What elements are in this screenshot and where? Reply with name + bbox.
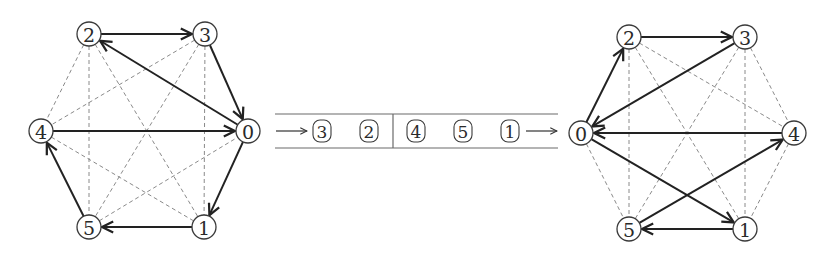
arrow-edge-3-to-0 (210, 45, 243, 119)
dashed-edge-3-4 (51, 40, 194, 125)
right-graph: 012345 (569, 25, 806, 241)
graph-node-1: 1 (733, 217, 757, 241)
left-graph: 012345 (29, 22, 260, 239)
graph-node-3: 3 (733, 25, 757, 49)
queue-item-label: 1 (505, 122, 516, 142)
node-label: 3 (199, 24, 211, 46)
graph-node-0: 0 (569, 121, 593, 145)
node-label: 5 (83, 217, 95, 239)
queue-strip: 32451 (275, 114, 558, 148)
node-label: 0 (242, 121, 254, 143)
graph-node-4: 4 (782, 121, 806, 145)
arrow-edge-5-to-4 (47, 143, 84, 217)
right-dashed-edges (586, 43, 788, 219)
dashed-edge-4-1 (51, 137, 193, 221)
queue-item-label: 4 (411, 122, 422, 142)
graph-node-2: 2 (77, 22, 101, 46)
queue-item-2: 2 (360, 120, 378, 142)
node-label: 1 (198, 217, 210, 239)
queue-item-label: 2 (364, 122, 375, 142)
graph-node-4: 4 (29, 119, 53, 143)
node-label: 1 (739, 219, 751, 241)
node-label: 0 (575, 123, 587, 145)
arrow-edge-3-to-0 (592, 43, 734, 126)
queue-item-label: 3 (317, 122, 328, 142)
queue-item-3: 3 (313, 120, 331, 142)
right-directed-edges (586, 37, 782, 229)
dashed-edge-5-0 (99, 137, 237, 221)
node-label: 2 (83, 24, 95, 46)
node-label: 4 (788, 123, 800, 145)
queue-item-4: 4 (407, 120, 425, 142)
graph-node-0: 0 (236, 119, 260, 143)
queue-item-5: 5 (454, 120, 472, 142)
node-label: 2 (623, 27, 635, 49)
diagram-canvas: 012345 32451 012345 (0, 0, 838, 255)
graph-node-5: 5 (617, 217, 641, 241)
queue-item-1: 1 (501, 120, 519, 142)
arrow-edge-5-to-4 (639, 140, 782, 223)
graph-node-2: 2 (617, 25, 641, 49)
queue-items: 32451 (313, 120, 519, 142)
node-label: 4 (35, 121, 47, 143)
left-directed-edges (47, 34, 243, 227)
node-label: 5 (623, 219, 635, 241)
arrow-edge-0-to-2 (100, 41, 238, 125)
graph-node-1: 1 (192, 215, 216, 239)
graph-node-5: 5 (77, 215, 101, 239)
graph-node-3: 3 (193, 22, 217, 46)
arrow-edge-0-to-1 (209, 142, 243, 215)
queue-item-label: 5 (458, 122, 469, 142)
node-label: 3 (739, 27, 751, 49)
